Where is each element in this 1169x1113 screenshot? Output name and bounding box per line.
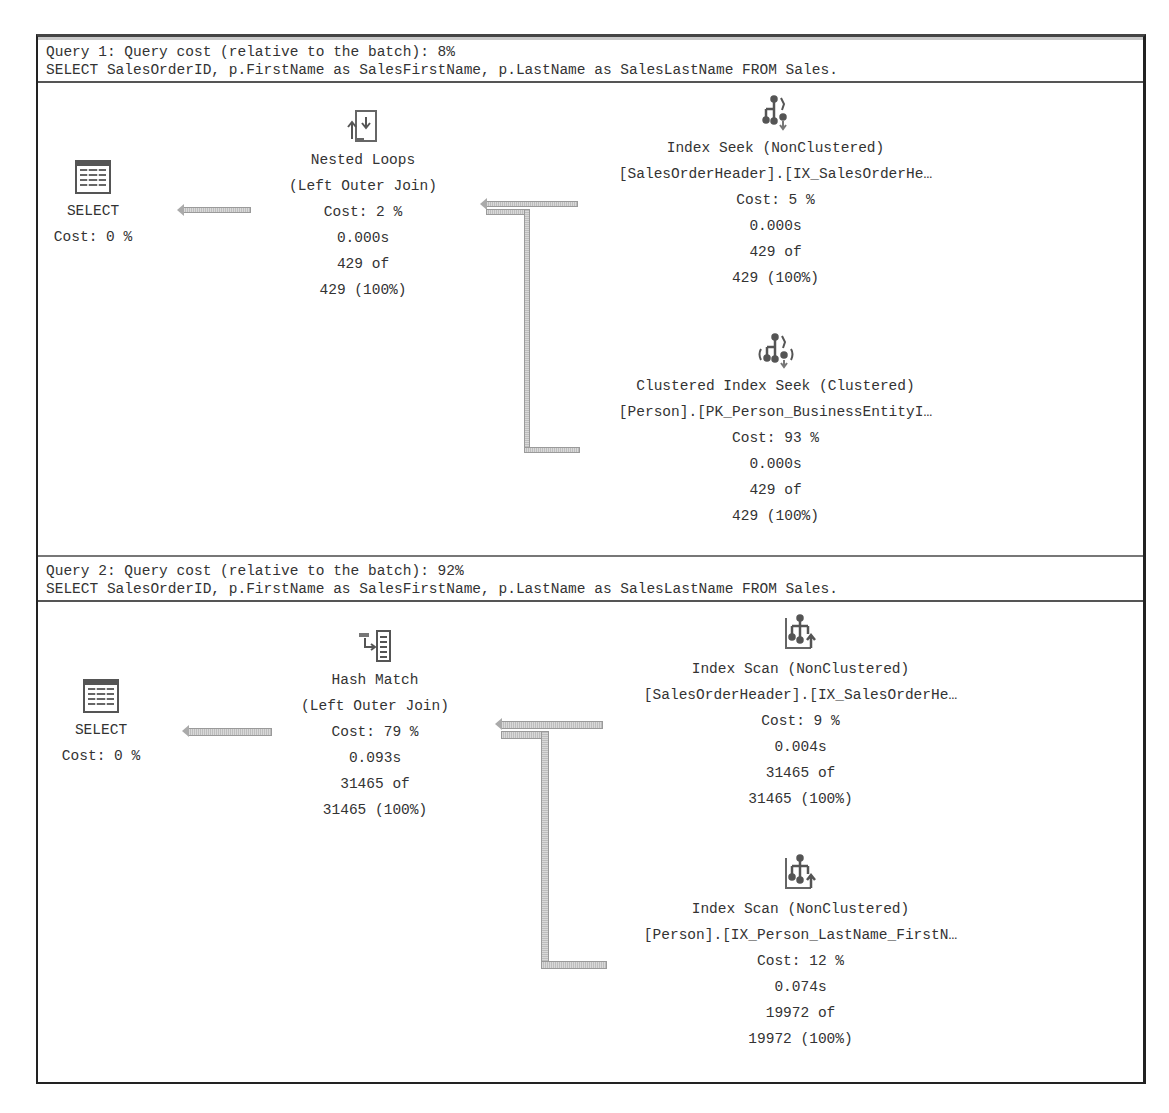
node-time: 0.093s [270, 745, 480, 771]
index-scan-icon [783, 614, 819, 652]
node-rows: 429 of [583, 477, 968, 503]
index-scan-icon [783, 854, 819, 892]
node-time: 0.000s [583, 213, 968, 239]
node-cost: Cost: 0 % [56, 743, 146, 769]
node-name: Index Scan (NonClustered) [608, 896, 993, 922]
node-object: [SalesOrderHeader].[IX_SalesOrderHe… [583, 161, 968, 187]
q1-connector-bottom-h2 [524, 447, 580, 453]
node-type: (Left Outer Join) [270, 693, 480, 719]
node-rows-pct: 19972 (100%) [608, 1026, 993, 1052]
q2-bottom-operator-node[interactable]: Index Scan (NonClustered) [Person].[IX_P… [608, 854, 993, 1052]
query-1-header: Query 1: Query cost (relative to the bat… [38, 41, 1143, 83]
node-object: [Person].[PK_Person_BusinessEntityI… [583, 399, 968, 425]
query-2-sql: SELECT SalesOrderID, p.FirstName as Sale… [46, 580, 1135, 598]
q2-join-node[interactable]: Hash Match (Left Outer Join) Cost: 79 % … [270, 629, 480, 823]
node-rows-pct: 31465 (100%) [608, 786, 993, 812]
node-rows: 19972 of [608, 1000, 993, 1026]
node-rows-pct: 429 (100%) [583, 503, 968, 529]
node-label: SELECT [48, 198, 138, 224]
top-border-shade [38, 37, 1143, 40]
q2-top-operator-node[interactable]: Index Scan (NonClustered) [SalesOrderHea… [608, 614, 993, 812]
node-rows: 31465 of [270, 771, 480, 797]
query-1-cost-title: Query 1: Query cost (relative to the bat… [46, 43, 1135, 61]
node-cost: Cost: 5 % [583, 187, 968, 213]
q2-connector-bottom-v [541, 731, 549, 969]
node-rows: 31465 of [608, 760, 993, 786]
node-cost: Cost: 12 % [608, 948, 993, 974]
q1-select-node[interactable]: SELECT Cost: 0 % [48, 160, 138, 250]
node-type: (Left Outer Join) [258, 173, 468, 199]
hash-match-icon [357, 629, 393, 663]
q1-bottom-operator-node[interactable]: Clustered Index Seek (Clustered) [Person… [583, 333, 968, 529]
q1-top-operator-node[interactable]: Index Seek (NonClustered) [SalesOrderHea… [583, 95, 968, 291]
node-cost: Cost: 93 % [583, 425, 968, 451]
select-table-icon [83, 679, 119, 713]
node-time: 0.000s [583, 451, 968, 477]
query-1-sql: SELECT SalesOrderID, p.FirstName as Sale… [46, 61, 1135, 79]
node-name: Index Seek (NonClustered) [583, 135, 968, 161]
node-time: 0.000s [258, 225, 468, 251]
node-rows: 429 of [583, 239, 968, 265]
q1-join-node[interactable]: Nested Loops (Left Outer Join) Cost: 2 %… [258, 109, 468, 303]
node-cost: Cost: 9 % [608, 708, 993, 734]
node-name: Nested Loops [258, 147, 468, 173]
node-rows-pct: 429 (100%) [583, 265, 968, 291]
query-2-header: Query 2: Query cost (relative to the bat… [38, 560, 1143, 602]
node-name: Hash Match [270, 667, 480, 693]
q1-arrow-top-to-join [486, 201, 578, 207]
nested-loops-icon [346, 109, 380, 143]
q2-select-node[interactable]: SELECT Cost: 0 % [56, 679, 146, 769]
q2-arrow-join-to-select [188, 728, 272, 736]
q1-connector-bottom-v [524, 209, 530, 453]
node-object: [Person].[IX_Person_LastName_FirstN… [608, 922, 993, 948]
index-seek-icon [759, 95, 793, 131]
q2-arrow-top-to-join [501, 721, 603, 729]
node-label: SELECT [56, 717, 146, 743]
node-rows-pct: 31465 (100%) [270, 797, 480, 823]
q1-arrow-join-to-select [183, 207, 251, 213]
node-rows: 429 of [258, 251, 468, 277]
node-cost: Cost: 79 % [270, 719, 480, 745]
clustered-index-seek-icon [756, 333, 796, 369]
node-cost: Cost: 2 % [258, 199, 468, 225]
execution-plan-window: Query 1: Query cost (relative to the bat… [36, 34, 1146, 1084]
node-name: Index Scan (NonClustered) [608, 656, 993, 682]
node-rows-pct: 429 (100%) [258, 277, 468, 303]
select-table-icon [75, 160, 111, 194]
node-cost: Cost: 0 % [48, 224, 138, 250]
query-separator [38, 555, 1143, 557]
q2-connector-bottom-h2 [541, 961, 607, 969]
node-time: 0.004s [608, 734, 993, 760]
node-object: [SalesOrderHeader].[IX_SalesOrderHe… [608, 682, 993, 708]
node-time: 0.074s [608, 974, 993, 1000]
node-name: Clustered Index Seek (Clustered) [583, 373, 968, 399]
query-2-cost-title: Query 2: Query cost (relative to the bat… [46, 562, 1135, 580]
